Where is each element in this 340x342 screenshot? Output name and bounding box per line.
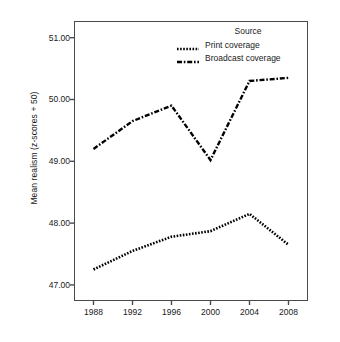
x-tick-label: 2004: [230, 307, 270, 317]
legend-line-swatch-icon: [176, 40, 200, 50]
legend: Source Print coverageBroadcast coverage: [176, 26, 302, 66]
y-axis-tick-labels: 51.0050.0049.0048.0047.00: [26, 0, 70, 342]
legend-item-1[interactable]: Broadcast coverage: [176, 53, 302, 63]
y-tick-label: 51.00: [30, 33, 70, 43]
x-axis-tick-labels: 198819921996200020042008: [0, 307, 340, 327]
x-tick-label: 1988: [74, 307, 114, 317]
legend-item-0[interactable]: Print coverage: [176, 40, 302, 50]
y-tick-label: 50.00: [30, 94, 70, 104]
legend-line-swatch-icon: [176, 53, 200, 63]
legend-label: Broadcast coverage: [205, 53, 281, 63]
legend-entries: Print coverageBroadcast coverage: [176, 40, 302, 63]
x-tick-label: 2000: [191, 307, 231, 317]
y-tick-label: 47.00: [30, 280, 70, 290]
legend-label: Print coverage: [205, 40, 260, 50]
y-tick-label: 48.00: [30, 218, 70, 228]
chart-figure: Mean realism (z-scores + 50) 51.0050.004…: [0, 0, 340, 342]
y-tick-label: 49.00: [30, 156, 70, 166]
legend-title: Source: [194, 26, 302, 36]
x-tick-label: 1996: [152, 307, 192, 317]
x-tick-label: 1992: [113, 307, 153, 317]
x-tick-label: 2008: [269, 307, 309, 317]
